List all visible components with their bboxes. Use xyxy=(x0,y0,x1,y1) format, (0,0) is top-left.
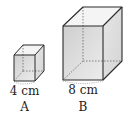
cube-b-edge-label: 8 cm xyxy=(68,83,98,97)
cube-a-name-label: A xyxy=(19,100,29,114)
cube-comparison-diagram: 4 cm A 8 cm B xyxy=(0,0,132,121)
cube-a-edge-label: 4 cm xyxy=(10,84,40,98)
cube-a-front-face xyxy=(14,55,35,81)
cube-a: 4 cm A xyxy=(10,45,44,114)
cube-b: 8 cm B xyxy=(63,7,122,114)
cube-b-name-label: B xyxy=(79,100,88,114)
